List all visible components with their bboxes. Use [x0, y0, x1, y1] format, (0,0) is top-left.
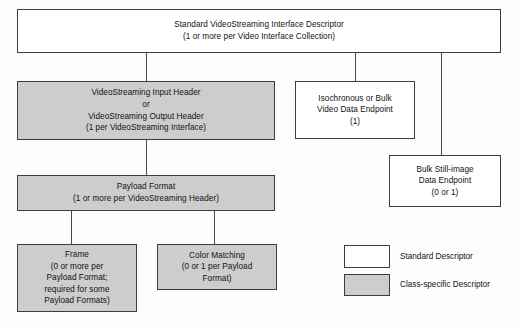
node-line: Payload Format;: [47, 272, 108, 284]
legend-label-class-specific-descriptor: Class-specific Descriptor: [400, 279, 490, 290]
node-vs-header[interactable]: VideoStreaming Input Header or VideoStre…: [17, 81, 275, 140]
legend-swatch-standard-descriptor: [344, 245, 390, 268]
node-line: (1): [350, 116, 360, 128]
node-video-data-endpoint[interactable]: Isochronous or Bulk Video Data Endpoint …: [295, 81, 415, 139]
node-line: Standard VideoStreaming Interface Descri…: [174, 19, 344, 31]
node-line: or: [142, 99, 149, 111]
diagram-canvas: Standard VideoStreaming Interface Descri…: [0, 0, 518, 326]
node-line: VideoStreaming Input Header: [91, 87, 200, 99]
connector-root-to-header: [146, 52, 147, 82]
connector-header-to-payload-format: [146, 140, 147, 175]
node-line: (0 or 1 per Payload: [182, 261, 253, 273]
node-line: Payload Formats): [44, 295, 109, 307]
node-color-matching[interactable]: Color Matching (0 or 1 per Payload Forma…: [157, 244, 277, 290]
legend-label-standard-descriptor: Standard Descriptor: [400, 251, 473, 262]
node-line: Payload Format: [117, 181, 176, 193]
connector-root-to-video-endpoint: [355, 52, 356, 82]
legend-swatch-class-specific-descriptor: [344, 274, 390, 296]
node-line: Format): [202, 273, 231, 285]
node-line: (0 or 1): [432, 187, 459, 199]
connector-root-to-still-image-endpoint: [441, 52, 442, 155]
node-line: Bulk Still-image: [416, 164, 473, 176]
node-line: (1 per VideoStreaming Interface): [86, 122, 206, 134]
node-line: Color Matching: [189, 250, 245, 262]
node-line: required for some: [44, 284, 109, 296]
node-line: Isochronous or Bulk: [318, 93, 391, 105]
node-line: VideoStreaming Output Header: [88, 111, 204, 123]
node-line: (0 or more per: [51, 261, 104, 273]
connector-payload-format-to-color-matching: [214, 211, 215, 244]
node-line: (1 or more per VideoStreaming Header): [73, 193, 219, 205]
connector-payload-format-to-frame: [71, 211, 72, 244]
node-vs-interface-descriptor[interactable]: Standard VideoStreaming Interface Descri…: [17, 9, 501, 53]
node-line: (1 or more per Video Interface Collectio…: [183, 31, 335, 43]
node-line: Video Data Endpoint: [317, 104, 393, 116]
node-frame[interactable]: Frame (0 or more per Payload Format; req…: [17, 244, 137, 312]
node-payload-format[interactable]: Payload Format (1 or more per VideoStrea…: [17, 175, 275, 211]
node-still-image-endpoint[interactable]: Bulk Still-image Data Endpoint (0 or 1): [389, 155, 501, 207]
node-line: Data Endpoint: [419, 175, 472, 187]
node-line: Frame: [65, 249, 89, 261]
